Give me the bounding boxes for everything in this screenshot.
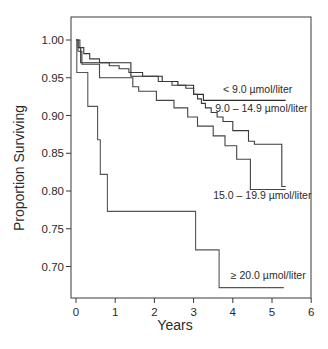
y-tick-label: 0.80 [42, 185, 64, 197]
series-label: ≥ 20.0 µmol/liter [231, 269, 306, 281]
survival-curves [76, 40, 286, 288]
y-tick-label: 1.00 [42, 34, 64, 46]
y-tick-label: 0.85 [42, 147, 64, 159]
survival-curve [76, 40, 284, 288]
y-tick-label: 0.70 [42, 261, 64, 273]
y-tick-label: 0.75 [42, 223, 64, 235]
y-axis-ticks: 0.700.750.800.850.900.951.00 [42, 34, 71, 273]
plot-frame [71, 17, 311, 298]
x-axis-title: Years [157, 317, 192, 333]
y-tick-label: 0.95 [42, 72, 64, 84]
y-axis-title: Proportion Surviving [11, 105, 27, 231]
x-tick-label: 1 [112, 306, 118, 318]
series-label: < 9.0 µmol/liter [223, 83, 293, 95]
x-axis-ticks: 0123456 [73, 298, 315, 318]
series-label: 9.0 – 14.9 µmol/liter [215, 102, 308, 114]
series-labels: < 9.0 µmol/liter9.0 – 14.9 µmol/liter15.… [213, 83, 312, 281]
x-tick-label: 5 [269, 306, 275, 318]
survival-chart: 0.700.750.800.850.900.951.00 0123456 < 9… [0, 0, 328, 349]
x-tick-label: 6 [308, 306, 314, 318]
x-tick-label: 4 [230, 306, 237, 318]
plot-border [71, 17, 311, 298]
y-tick-label: 0.90 [42, 110, 64, 122]
x-tick-label: 0 [73, 306, 79, 318]
series-label: 15.0 – 19.9 µmol/liter [213, 189, 312, 201]
